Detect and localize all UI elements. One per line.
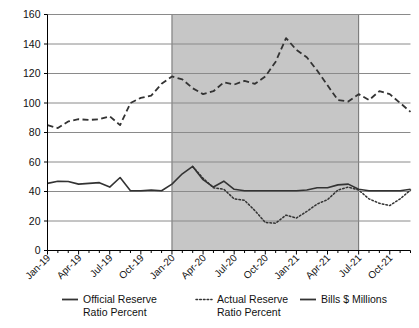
y-axis-label: 40 — [29, 185, 41, 197]
y-axis-label: 160 — [23, 8, 41, 20]
legend-label-line1: Actual Reserve — [217, 293, 288, 305]
y-axis-label: 100 — [23, 97, 41, 109]
y-axis-label: 120 — [23, 67, 41, 79]
y-axis-label: 80 — [29, 126, 41, 138]
y-axis-label: 140 — [23, 38, 41, 50]
y-axis-label: 60 — [29, 156, 41, 168]
legend-label-line1: Bills $ Millions — [321, 293, 387, 305]
y-axis-label: 20 — [29, 215, 41, 227]
legend-label-line2: Ratio Percent — [217, 306, 281, 318]
line-chart: 020406080100120140160 Jan-19Apr-19Jul-19… — [0, 0, 419, 328]
legend-label-line1: Official Reserve — [83, 293, 157, 305]
legend-label-line2: Ratio Percent — [83, 306, 147, 318]
chart-container: 020406080100120140160 Jan-19Apr-19Jul-19… — [0, 0, 419, 328]
y-axis-label: 0 — [35, 244, 41, 256]
